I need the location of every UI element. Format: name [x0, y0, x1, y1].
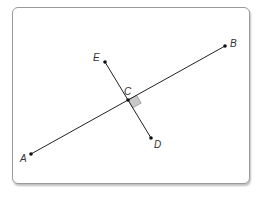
label-a: A [19, 153, 27, 164]
label-d: D [154, 139, 161, 150]
point-e [103, 60, 107, 64]
point-c [126, 98, 130, 102]
point-a [29, 152, 33, 156]
point-b [223, 44, 227, 48]
geometry-diagram: A B C D E [0, 0, 259, 198]
label-b: B [230, 38, 237, 49]
label-e: E [93, 52, 100, 63]
point-d [149, 136, 153, 140]
label-c: C [124, 86, 132, 97]
right-angle-marker [128, 95, 141, 108]
